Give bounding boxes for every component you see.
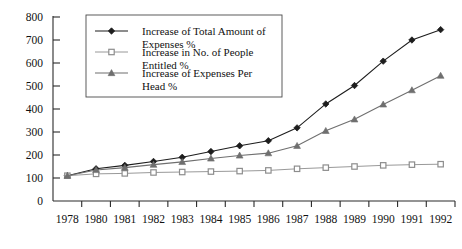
y-axis-tick-label: 500 [26, 80, 44, 92]
triangle-marker [351, 116, 358, 122]
y-axis-group: 0100200300400500600700800 [26, 11, 60, 207]
x-axis-tick-label: 1981 [113, 213, 136, 225]
legend-label-line2: Head % [142, 80, 177, 92]
square-marker [352, 164, 357, 169]
y-axis-tick-label: 200 [26, 149, 44, 161]
x-axis-tick-label: 1980 [85, 213, 108, 225]
x-axis-tick-label: 1986 [257, 213, 280, 225]
square-marker [237, 168, 242, 173]
y-axis-tick-label: 600 [26, 57, 44, 69]
chart-svg: 0100200300400500600700800 19781980198119… [0, 0, 462, 249]
x-axis-tick-label: 1978 [56, 213, 79, 225]
x-axis-tick-label: 1983 [171, 213, 194, 225]
y-axis-tick-label: 100 [26, 172, 44, 184]
square-marker [109, 49, 114, 54]
x-axis-tick-label: 1985 [228, 213, 251, 225]
x-axis-tick-label: 1989 [343, 213, 366, 225]
triangle-marker [294, 142, 301, 148]
square-marker [409, 162, 414, 167]
square-marker [323, 165, 328, 170]
diamond-marker [437, 26, 443, 32]
legend-label-line1: Increase of Expenses Per [142, 67, 253, 79]
square-marker [266, 168, 271, 173]
y-axis-ticks [53, 17, 60, 178]
x-axis-tick-label: 1992 [429, 213, 452, 225]
square-marker [208, 169, 213, 174]
square-marker [151, 170, 156, 175]
legend-label-line1: Increase of Total Amount of [142, 25, 266, 37]
y-axis-tick-label: 300 [26, 126, 44, 138]
y-axis-tick-labels: 0100200300400500600700800 [26, 11, 44, 207]
y-axis-tick-label: 800 [26, 11, 44, 23]
x-axis-tick-labels: 1978198019811982198319841985198619871988… [56, 213, 453, 225]
square-marker [180, 169, 185, 174]
triangle-marker [380, 101, 387, 107]
triangle-marker [409, 87, 416, 93]
y-axis-tick-label: 700 [26, 34, 44, 46]
diamond-marker [265, 138, 271, 144]
line-chart: 0100200300400500600700800 19781980198119… [0, 0, 462, 249]
x-axis-ticks [82, 201, 455, 207]
x-axis-tick-label: 1987 [286, 213, 309, 225]
x-axis-tick-label: 1984 [199, 213, 222, 225]
x-axis-tick-label: 1988 [314, 213, 337, 225]
y-axis-tick-label: 400 [26, 103, 44, 115]
x-axis-tick-label: 1982 [142, 213, 165, 225]
x-axis-tick-label: 1991 [400, 213, 423, 225]
square-marker [294, 166, 299, 171]
triangle-marker [437, 72, 444, 78]
diamond-marker [236, 143, 242, 149]
x-axis-tick-label: 1990 [372, 213, 395, 225]
diamond-marker [208, 148, 214, 154]
x-axis-group: 1978198019811982198319841985198619871988… [53, 201, 455, 225]
square-marker [381, 163, 386, 168]
y-axis-tick-label: 0 [37, 195, 43, 207]
square-marker [122, 171, 127, 176]
square-marker [438, 162, 443, 167]
chart-legend: Increase of Total Amount ofExpenses %Inc… [86, 15, 282, 97]
legend-label-line1: Increase in No. of People [142, 46, 254, 58]
